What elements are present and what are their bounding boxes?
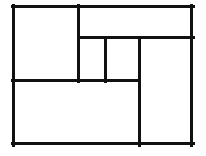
dissection-figure xyxy=(0,0,206,156)
region-middle-inner[interactable] xyxy=(105,37,139,80)
region-bottom-left[interactable] xyxy=(12,80,139,145)
region-top-left[interactable] xyxy=(12,5,78,80)
region-top-right[interactable] xyxy=(78,5,193,37)
diagram-canvas xyxy=(0,0,206,156)
region-right-tall[interactable] xyxy=(139,37,193,145)
region-middle-small[interactable] xyxy=(78,37,105,80)
